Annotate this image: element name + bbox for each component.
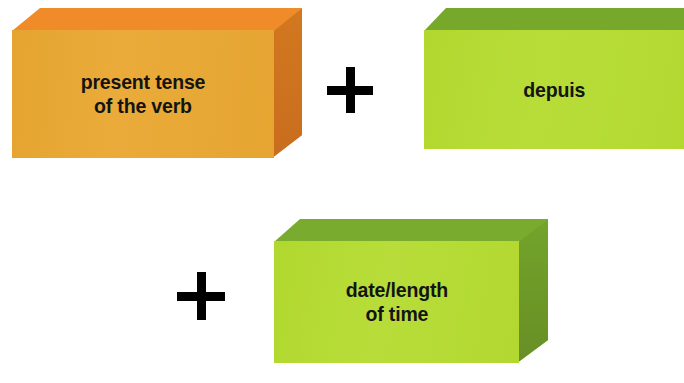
plus-vertical-bar	[197, 272, 206, 320]
block-present-tense-verb: present tense of the verb	[12, 8, 302, 158]
block-date-length-of-time-label: date/length of time	[345, 278, 447, 325]
plus-operator-icon-1	[327, 67, 373, 113]
block-date-length-of-time: date/length of time	[274, 219, 548, 363]
plus-vertical-bar	[346, 67, 355, 113]
block-depuis-front-face: depuis	[424, 30, 684, 149]
block-present-tense-verb-top-face	[12, 8, 302, 31]
block-date-length-of-time-side-face	[517, 219, 548, 363]
block-present-tense-verb-front-face: present tense of the verb	[12, 30, 274, 158]
block-depuis: depuis	[424, 8, 684, 149]
block-present-tense-verb-side-face	[272, 8, 302, 158]
block-depuis-label: depuis	[523, 78, 585, 102]
block-present-tense-verb-label: present tense of the verb	[81, 70, 206, 117]
block-depuis-top-face	[424, 8, 684, 31]
plus-operator-icon-2	[177, 272, 225, 320]
block-date-length-of-time-front-face: date/length of time	[274, 241, 519, 363]
block-date-length-of-time-top-face	[274, 219, 548, 242]
